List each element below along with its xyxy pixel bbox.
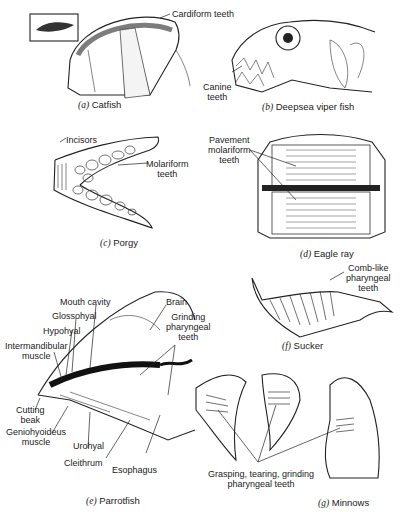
label-cutting-beak: Cuttingbeak	[16, 405, 45, 425]
catfish-jaw-drawing	[68, 17, 190, 98]
caption-parrotfish: (e) Parrotfish	[86, 495, 140, 506]
caption-name: Sucker	[294, 340, 324, 351]
caption-minnows: (g) Minnows	[318, 497, 369, 508]
eagle-ray-jaw-drawing	[258, 135, 385, 239]
caption-sucker: (f) Sucker	[282, 340, 323, 351]
label-geniohyoideus-muscle: Geniohyoideusmuscle	[6, 427, 66, 447]
caption-letter: (d)	[300, 249, 311, 259]
caption-letter: (b)	[262, 102, 273, 112]
label-cardiform-teeth: Cardiform teeth	[172, 9, 234, 19]
caption-porgy: (c) Porgy	[100, 237, 138, 248]
catfish-inset	[30, 14, 78, 41]
caption-letter: (e)	[86, 496, 97, 506]
caption-letter: (a)	[78, 100, 89, 110]
label-glossohyal: Glossohyal	[52, 311, 97, 321]
caption-name: Eagle ray	[314, 248, 354, 259]
caption-name: Catfish	[92, 99, 122, 110]
label-brain: Brain	[166, 297, 187, 307]
label-hypohyal: Hypohyal	[43, 326, 81, 336]
caption-name: Porgy	[113, 237, 138, 248]
caption-letter: (g)	[318, 498, 329, 508]
caption-deepsea-viper-fish: (b) Deepsea viper fish	[262, 101, 354, 112]
label-comb-like-pharyngeal-teeth: Comb-likepharyngealteeth	[346, 263, 391, 293]
label-pavement-molariform-teeth: Pavementmolariformteeth	[208, 135, 251, 165]
label-esophagus: Esophagus	[112, 465, 157, 475]
porgy-jaw-drawing	[54, 137, 159, 228]
caption-letter: (f)	[282, 341, 291, 351]
label-cleithrum: Cleithrum	[64, 458, 103, 468]
caption-name: Minnows	[332, 497, 370, 508]
caption-catfish: (a) Catfish	[78, 99, 121, 110]
label-grinding-pharyngeal-teeth: Grindingpharyngealteeth	[166, 312, 211, 342]
label-canine-teeth: Canineteeth	[203, 82, 232, 102]
label-molariform-teeth: Molariformteeth	[146, 159, 189, 179]
caption-eagle-ray: (d) Eagle ray	[300, 248, 354, 259]
caption-name: Parrotfish	[99, 495, 140, 506]
label-urohyal: Urohyal	[73, 441, 104, 451]
label-grasping-tearing-grinding-pharyngeal-teeth: Grasping, tearing, grindingpharyngeal te…	[208, 469, 314, 489]
caption-name: Deepsea viper fish	[276, 101, 355, 112]
label-incisors: Incisors	[66, 135, 97, 145]
label-intermandibular-muscle: Intermandibularmuscle	[5, 341, 68, 361]
caption-letter: (c)	[100, 238, 111, 248]
label-mouth-cavity: Mouth cavity	[60, 297, 111, 307]
minnows-pharyngeal-drawing	[196, 374, 379, 478]
viper-fish-drawing	[232, 20, 375, 92]
